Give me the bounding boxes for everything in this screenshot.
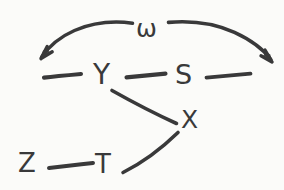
edge-line-Y-to-X: [112, 91, 177, 124]
node-label-z: Z: [18, 150, 36, 176]
node-label-y: Y: [93, 61, 110, 89]
node-label-omega: ω: [136, 16, 157, 41]
node-label-t: T: [95, 151, 111, 177]
node-label-x: X: [181, 107, 198, 132]
edge-dash-Y-to-S: [127, 74, 166, 78]
diagram-canvas: ω Y S X Z T: [0, 0, 284, 190]
node-label-s: S: [175, 61, 192, 88]
edge-dash-Z-to-T: [49, 163, 93, 168]
edge-dash-left-to-Y: [44, 74, 81, 78]
edge-line-T-to-X: [123, 133, 178, 173]
edge-arc-omega-left: [40, 22, 132, 59]
edge-arc-omega-right: [169, 22, 273, 63]
edge-dash-S-to-right: [207, 74, 251, 78]
